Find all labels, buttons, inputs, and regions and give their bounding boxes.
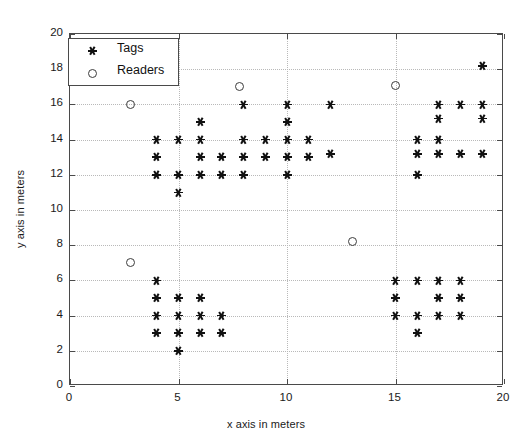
- star-ray: [479, 114, 485, 123]
- x-axis-tick: [287, 379, 288, 384]
- data-point-tag: [434, 294, 443, 303]
- star-ray: [478, 65, 487, 67]
- star-ray: [436, 294, 442, 303]
- x-axis-tick: [70, 379, 71, 384]
- star-ray: [436, 114, 442, 123]
- star-ray: [197, 118, 203, 127]
- gridline-vertical: [287, 34, 288, 384]
- star-ray: [434, 297, 443, 299]
- star-ray: [327, 149, 333, 158]
- data-point-tag: [478, 149, 487, 158]
- data-point-tag: [196, 118, 205, 127]
- star-ray: [197, 118, 203, 127]
- y-axis-tick: [70, 104, 75, 105]
- star-ray: [154, 153, 160, 162]
- star-center: [199, 156, 202, 159]
- data-point-reader: [235, 82, 244, 91]
- data-point-reader: [126, 258, 135, 267]
- y-axis-tick: [497, 69, 502, 70]
- star-ray: [458, 149, 464, 158]
- y-axis-tick: [70, 140, 75, 141]
- star-ray: [458, 294, 464, 303]
- x-axis-tick: [396, 379, 397, 384]
- data-point-tag: [152, 329, 161, 338]
- legend: Tags Readers: [68, 38, 179, 86]
- data-point-tag: [413, 329, 422, 338]
- data-point-tag: [152, 294, 161, 303]
- gridline-vertical: [179, 34, 180, 384]
- star-ray: [306, 153, 312, 162]
- data-point-tag: [261, 153, 270, 162]
- star-ray: [217, 332, 226, 334]
- y-axis-tick-label: 16: [23, 96, 63, 108]
- star-ray: [241, 153, 247, 162]
- gridline-horizontal: [70, 316, 502, 317]
- star-ray: [154, 294, 160, 303]
- star-ray: [413, 153, 422, 155]
- y-axis-tick-label: 20: [23, 26, 63, 38]
- y-axis-tick-label: 18: [23, 61, 63, 73]
- x-axis-tick-label: 20: [483, 391, 523, 403]
- star-center: [329, 152, 332, 155]
- star-center: [307, 156, 310, 159]
- star-ray: [152, 297, 161, 299]
- data-point-tag: [152, 153, 161, 162]
- star-ray: [456, 297, 465, 299]
- star-center: [481, 64, 484, 67]
- star-ray: [262, 153, 268, 162]
- x-axis-tick-label: 15: [375, 391, 415, 403]
- y-axis-tick-label: 4: [23, 308, 63, 320]
- star-ray: [456, 153, 465, 155]
- x-axis-tick: [504, 379, 505, 384]
- data-point-tag: [326, 149, 335, 158]
- data-point-reader: [88, 69, 97, 78]
- y-axis-tick: [70, 280, 75, 281]
- x-axis-tick: [504, 34, 505, 39]
- star-ray: [154, 294, 160, 303]
- star-center: [459, 296, 462, 299]
- x-axis-tick: [287, 34, 288, 39]
- data-point-tag: [456, 294, 465, 303]
- star-ray: [196, 156, 205, 158]
- data-point-tag: [413, 149, 422, 158]
- star-center: [459, 152, 462, 155]
- legend-entry-readers: Readers: [69, 61, 178, 85]
- data-point-tag: [217, 329, 226, 338]
- y-axis-tick: [70, 210, 75, 211]
- y-axis-tick-label: 12: [23, 167, 63, 179]
- y-axis-tick: [70, 351, 75, 352]
- gridline-horizontal: [70, 280, 502, 281]
- star-ray: [89, 47, 95, 56]
- y-axis-tick: [497, 34, 502, 35]
- star-ray: [196, 297, 205, 299]
- y-axis-tick: [497, 104, 502, 105]
- y-axis-tick: [497, 210, 502, 211]
- x-axis-tick-label: 5: [158, 391, 198, 403]
- star-center: [220, 332, 223, 335]
- star-ray: [458, 294, 464, 303]
- x-axis-tick-label: 0: [49, 391, 89, 403]
- star-center: [199, 120, 202, 123]
- gridline-horizontal: [70, 104, 502, 105]
- y-axis-tick-label: 0: [23, 378, 63, 390]
- star-ray: [262, 153, 268, 162]
- y-axis-tick-label: 14: [23, 132, 63, 144]
- star-center: [155, 332, 158, 335]
- y-axis-tick: [70, 386, 75, 387]
- star-center: [416, 332, 419, 335]
- star-ray: [154, 329, 160, 338]
- star-ray: [479, 149, 485, 158]
- star-center: [220, 156, 223, 159]
- star-ray: [219, 153, 225, 162]
- data-point-tag: [456, 149, 465, 158]
- star-ray: [436, 294, 442, 303]
- star-ray: [89, 47, 95, 56]
- star-ray: [479, 149, 485, 158]
- star-center: [155, 156, 158, 159]
- star-center: [199, 332, 202, 335]
- y-axis-tick: [70, 316, 75, 317]
- legend-entry-tags: Tags: [69, 39, 178, 63]
- y-axis-tick-label: 6: [23, 272, 63, 284]
- star-ray: [219, 153, 225, 162]
- star-ray: [478, 153, 487, 155]
